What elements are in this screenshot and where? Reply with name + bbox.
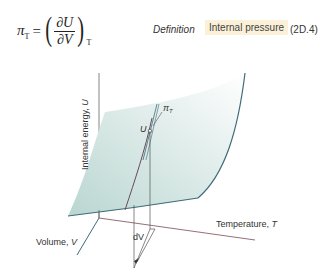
internal-energy-surface-diagram: Internal energy, U Temperature, T Volume…: [0, 0, 328, 279]
u-axis-label: Internal energy, U: [80, 99, 90, 170]
volume-axis-line: [77, 218, 99, 255]
dv-label: dV: [133, 232, 144, 242]
point-u-label: U: [140, 124, 147, 134]
temperature-axis-label: Temperature, T: [216, 219, 279, 229]
volume-axis-label: Volume, V: [36, 237, 78, 247]
energy-surface: [68, 73, 245, 216]
dv-arrowhead-icon: [134, 258, 139, 264]
